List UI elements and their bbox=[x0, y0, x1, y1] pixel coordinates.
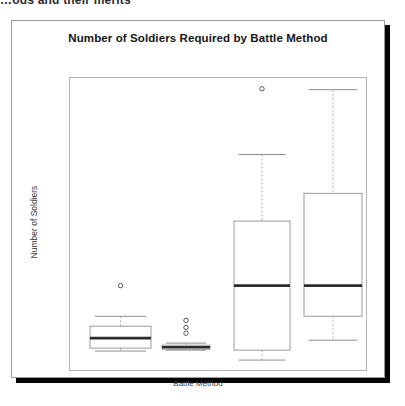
outlier-point bbox=[118, 283, 122, 287]
chart-title: Number of Soldiers Required by Battle Me… bbox=[12, 32, 384, 44]
outlier-point bbox=[184, 331, 188, 335]
boxplot-method-1 bbox=[90, 283, 151, 351]
boxplot-method-4 bbox=[304, 90, 362, 341]
outlier-point bbox=[184, 325, 188, 329]
iqr-box bbox=[304, 193, 362, 316]
plot-panel bbox=[69, 77, 367, 371]
boxplot-method-2 bbox=[162, 318, 210, 350]
y-axis-title: Number of Soldiers bbox=[29, 167, 39, 277]
x-axis-title: Battle Method bbox=[12, 379, 384, 388]
outlier-point bbox=[260, 87, 264, 91]
boxplot-method-3 bbox=[234, 87, 290, 360]
outlier-point bbox=[184, 318, 188, 322]
clipped-page-text: …ods and their merits bbox=[0, 0, 260, 7]
boxplot-svg bbox=[70, 78, 366, 370]
chart-card: Number of Soldiers Required by Battle Me… bbox=[11, 20, 385, 378]
